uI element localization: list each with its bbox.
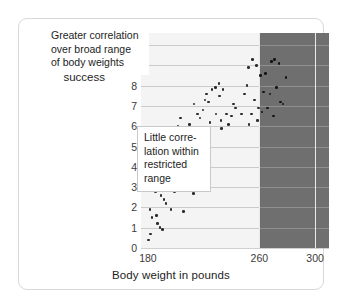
data-point bbox=[285, 76, 288, 79]
data-point bbox=[199, 117, 202, 120]
data-point bbox=[251, 58, 254, 61]
data-point bbox=[215, 113, 218, 116]
y-axis-tick-label: 3 bbox=[111, 182, 137, 193]
gridline-horizontal bbox=[141, 248, 329, 249]
data-point bbox=[225, 113, 228, 116]
data-point bbox=[160, 194, 163, 197]
y-axis-tick-label: 7 bbox=[111, 101, 137, 112]
y-axis-tick-label: 6 bbox=[111, 121, 137, 132]
gridline-horizontal bbox=[141, 86, 329, 87]
data-point bbox=[230, 115, 233, 118]
data-point bbox=[155, 214, 158, 217]
data-point bbox=[259, 74, 262, 77]
data-point bbox=[202, 109, 205, 112]
data-point bbox=[182, 210, 185, 213]
gridline-vertical bbox=[259, 33, 260, 248]
data-point bbox=[149, 208, 152, 211]
y-axis-tick-label: 5 bbox=[111, 141, 137, 152]
data-point bbox=[262, 91, 265, 94]
annotation-broad-range: Greater correlation over broad range of … bbox=[45, 25, 149, 75]
y-axis-tick-label: 1 bbox=[111, 222, 137, 233]
data-point bbox=[209, 121, 212, 124]
y-axis-tick-label: 8 bbox=[111, 80, 137, 91]
data-point bbox=[253, 99, 256, 102]
gridline-horizontal bbox=[141, 65, 329, 66]
data-point bbox=[255, 64, 258, 67]
data-point bbox=[192, 192, 195, 195]
data-point bbox=[196, 113, 199, 116]
data-point bbox=[222, 88, 225, 91]
data-point bbox=[220, 119, 223, 122]
data-point bbox=[278, 62, 281, 65]
data-point bbox=[270, 60, 273, 63]
data-point bbox=[248, 123, 251, 126]
data-point bbox=[205, 93, 208, 96]
y-axis-tick-label: 0 bbox=[111, 243, 137, 254]
data-point bbox=[247, 66, 250, 69]
gridline-vertical bbox=[315, 33, 316, 248]
gridline-horizontal bbox=[141, 45, 329, 46]
y-axis-tick-label: 2 bbox=[111, 202, 137, 213]
data-point bbox=[165, 202, 168, 205]
data-point bbox=[264, 72, 267, 75]
data-point bbox=[193, 103, 196, 106]
data-point bbox=[246, 84, 249, 87]
data-point bbox=[243, 93, 246, 96]
data-point bbox=[151, 216, 154, 219]
data-point bbox=[161, 228, 164, 231]
data-point bbox=[156, 222, 159, 225]
data-point bbox=[218, 95, 221, 98]
data-point bbox=[256, 119, 259, 122]
x-axis-tick-label: 180 bbox=[139, 252, 157, 264]
data-point bbox=[214, 86, 217, 89]
data-point bbox=[273, 58, 276, 61]
x-axis-label: Body weight in pounds bbox=[19, 269, 323, 281]
data-point bbox=[240, 113, 243, 116]
y-axis-tick-label: 4 bbox=[111, 162, 137, 173]
data-point bbox=[207, 101, 210, 104]
x-axis-tick-label: 260 bbox=[251, 252, 269, 264]
data-point bbox=[211, 88, 214, 91]
data-point bbox=[234, 107, 237, 110]
data-point bbox=[179, 117, 182, 120]
data-point bbox=[204, 99, 207, 102]
data-point bbox=[227, 123, 230, 126]
x-axis-tick-label: 300 bbox=[306, 252, 324, 264]
figure-card: Football linemen's success 012345678910 … bbox=[18, 18, 324, 290]
data-point bbox=[220, 127, 223, 130]
data-point bbox=[218, 82, 221, 85]
annotation-restricted-range: Little corre- lation within restricted r… bbox=[137, 126, 211, 192]
data-point bbox=[170, 208, 173, 211]
data-point bbox=[147, 239, 150, 242]
data-point bbox=[149, 233, 152, 236]
data-point bbox=[163, 198, 166, 201]
data-point bbox=[232, 103, 235, 106]
gridline-horizontal bbox=[141, 228, 329, 229]
data-point bbox=[250, 113, 253, 116]
